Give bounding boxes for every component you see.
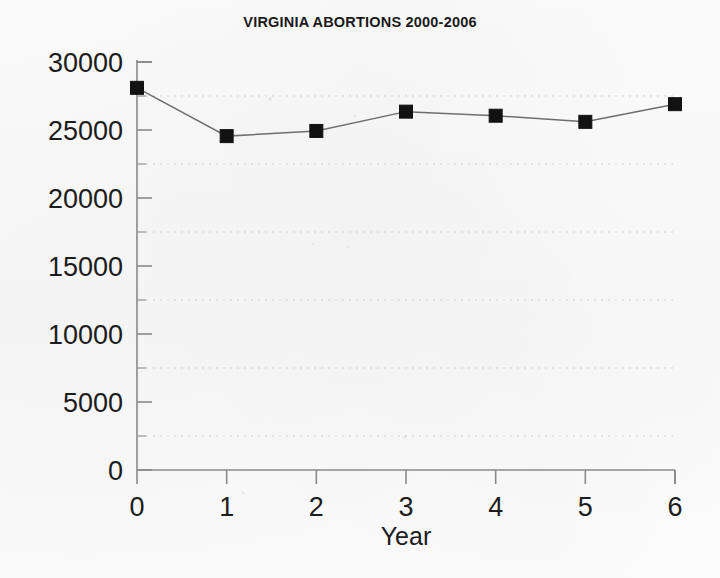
y-axis-major-ticks xyxy=(137,62,152,470)
data-point-marker xyxy=(489,109,502,122)
x-axis-tick-label: 3 xyxy=(398,492,413,522)
data-point-markers xyxy=(131,81,682,142)
data-point-marker xyxy=(579,115,592,128)
axes xyxy=(137,60,675,484)
y-axis-tick-label: 25000 xyxy=(48,116,123,146)
scan-specks xyxy=(242,97,407,495)
y-axis-tick-label: 10000 xyxy=(48,320,123,350)
chart-page: VIRGINIA ABORTIONS 2000-2006 05000100001… xyxy=(0,0,720,578)
x-axis-title: Year xyxy=(381,522,432,550)
data-point-marker xyxy=(400,105,413,118)
x-axis-tick-label: 6 xyxy=(667,492,682,522)
data-point-marker xyxy=(220,130,233,143)
data-point-marker xyxy=(669,98,682,111)
x-axis-tick-label: 2 xyxy=(309,492,324,522)
line-chart-plot: 050001000015000200002500030000 0123456 Y… xyxy=(0,0,720,578)
y-axis-tick-label: 15000 xyxy=(48,252,123,282)
data-point-marker xyxy=(131,81,144,94)
x-axis-tick-label: 5 xyxy=(578,492,593,522)
x-axis-tick-labels: 0123456 xyxy=(129,492,682,522)
y-axis-tick-labels: 050001000015000200002500030000 xyxy=(48,48,123,486)
y-axis-tick-label: 0 xyxy=(108,456,123,486)
data-point-marker xyxy=(310,124,323,137)
x-axis-tick-label: 4 xyxy=(488,492,503,522)
x-axis-tick-label: 0 xyxy=(129,492,144,522)
y-axis-tick-label: 20000 xyxy=(48,184,123,214)
x-axis-ticks xyxy=(137,470,675,484)
x-axis-tick-label: 1 xyxy=(219,492,234,522)
y-axis-tick-label: 5000 xyxy=(63,388,123,418)
y-axis-tick-label: 30000 xyxy=(48,48,123,78)
gridlines xyxy=(139,96,675,436)
